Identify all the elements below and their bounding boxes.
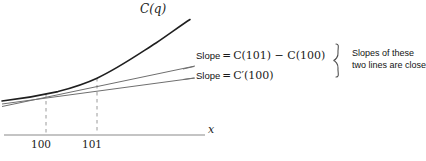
secant-line: [2, 66, 195, 107]
secant-slope-word: Slope: [196, 50, 220, 61]
secant-slope-annotation: Slope=C(101) − C(100): [196, 45, 325, 63]
curve-label: C(q): [140, 3, 166, 16]
curly-brace: [334, 44, 339, 77]
tangent-slope-annotation: Slope=C′(100): [196, 65, 274, 83]
brace-note-line-1: Slopes of these: [352, 47, 426, 59]
x-axis-label: x: [208, 124, 214, 136]
tick-label-100: 100: [31, 139, 51, 151]
brace-note: Slopes of these two lines are close: [352, 47, 426, 71]
tangent-slope-word: Slope: [196, 70, 220, 81]
tangent-slope-expression: C′(100): [233, 69, 274, 82]
secant-slope-expression: C(101) − C(100): [233, 49, 325, 62]
tangent-equals-sign: =: [220, 69, 233, 81]
secant-equals-sign: =: [220, 49, 233, 61]
tick-label-101: 101: [82, 139, 102, 151]
brace-note-line-2: two lines are close: [352, 59, 426, 71]
cost-curve: [2, 20, 190, 102]
